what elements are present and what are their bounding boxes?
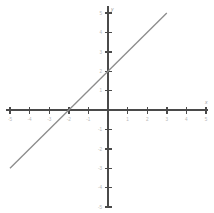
data-series-group [10,13,167,168]
y-tick-label: 3 [99,50,102,55]
y-tick-label: 4 [99,30,102,35]
y-tick-label: 5 [99,11,102,16]
chart-canvas: -5-4-3-2-112345 -5-4-3-2-112345 x y [0,0,214,213]
coordinate-plane-chart: -5-4-3-2-112345 -5-4-3-2-112345 x y [0,0,214,213]
y-tick-label: 1 [99,88,102,93]
y-tick-label: -2 [98,147,103,152]
x-tick-label: 1 [126,117,129,122]
line-series [10,13,167,168]
x-axis-label: x [204,99,208,105]
y-tick-label: -3 [98,166,103,171]
y-tick-label: -4 [98,185,103,190]
x-tick-label: -2 [67,117,72,122]
axes-group [6,6,208,208]
x-tick-label: 4 [185,117,188,122]
x-tick-label: -4 [28,117,33,122]
y-tick-label: -5 [98,205,103,210]
y-axis-label: y [110,6,114,12]
x-tick-label: 3 [166,117,169,122]
x-tick-label: 5 [205,117,208,122]
x-tick-label: -1 [86,117,91,122]
y-tick-label: -1 [98,127,103,132]
y-tick-label: 2 [99,69,102,74]
x-tick-label: -5 [8,117,13,122]
x-tick-label: -3 [47,117,52,122]
x-tick-label: 2 [146,117,149,122]
